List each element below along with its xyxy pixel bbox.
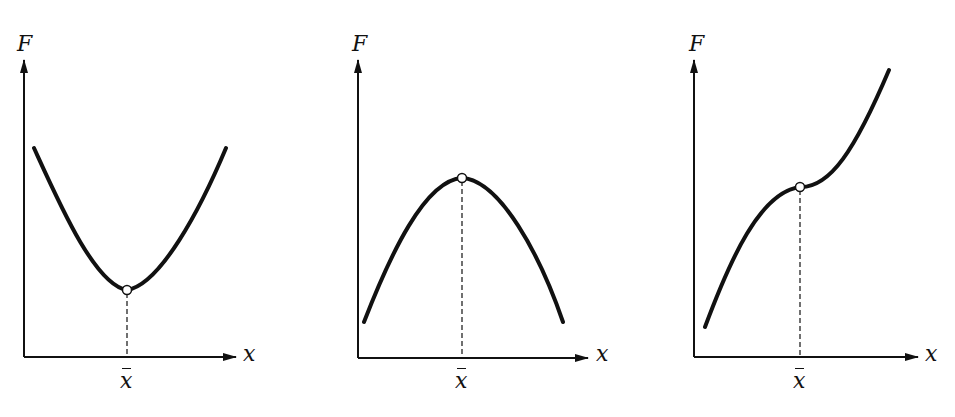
panel-minimum	[24, 60, 236, 357]
curve	[705, 70, 889, 327]
curve	[364, 178, 563, 322]
curve	[34, 148, 226, 290]
x-bar-label: x	[793, 370, 805, 392]
x-bar-label: x	[120, 370, 132, 392]
panel-maximum	[358, 60, 588, 358]
y-axis-label: F	[352, 33, 367, 55]
x-axis-label: x	[596, 343, 608, 365]
minimum-point-marker	[123, 286, 132, 295]
x-bar-label: x	[455, 370, 467, 392]
x-axis-label: x	[925, 343, 937, 365]
inflection-point-marker	[796, 183, 805, 192]
x-axis-label: x	[243, 343, 255, 365]
y-axis-label: F	[689, 33, 704, 55]
y-axis-label: F	[17, 33, 32, 55]
panel-inflection	[694, 60, 918, 357]
figure-canvas	[0, 0, 955, 417]
maximum-point-marker	[458, 174, 467, 183]
